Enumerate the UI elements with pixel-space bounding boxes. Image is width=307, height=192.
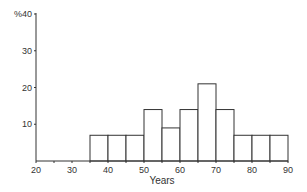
- y-tick-label: 10: [22, 119, 32, 129]
- x-tick-label: 50: [139, 165, 149, 175]
- histogram-bar: [234, 135, 252, 161]
- x-tick-label: 30: [67, 165, 77, 175]
- histogram-bar: [144, 110, 162, 161]
- histogram-chart: 102030%40 2030405060708090 Years: [0, 0, 307, 192]
- bars: [90, 84, 288, 161]
- histogram-bar: [198, 84, 216, 161]
- x-axis-label: Years: [149, 175, 174, 186]
- y-tick-label: 20: [22, 83, 32, 93]
- histogram-bar: [270, 135, 288, 161]
- histogram-bar: [126, 135, 144, 161]
- x-tick-label: 20: [31, 165, 41, 175]
- histogram-bar: [216, 110, 234, 161]
- histogram-bar: [90, 135, 108, 161]
- y-ticks: 102030%40: [14, 9, 36, 129]
- histogram-bar: [108, 135, 126, 161]
- x-tick-label: 40: [103, 165, 113, 175]
- x-tick-label: 80: [247, 165, 257, 175]
- x-tick-label: 60: [175, 165, 185, 175]
- x-tick-label: 70: [211, 165, 221, 175]
- y-tick-label: %40: [14, 9, 32, 19]
- y-tick-label: 30: [22, 46, 32, 56]
- histogram-bar: [162, 128, 180, 161]
- histogram-bar: [180, 110, 198, 161]
- x-ticks: 2030405060708090: [31, 161, 293, 175]
- histogram-bar: [252, 135, 270, 161]
- x-tick-label: 90: [283, 165, 293, 175]
